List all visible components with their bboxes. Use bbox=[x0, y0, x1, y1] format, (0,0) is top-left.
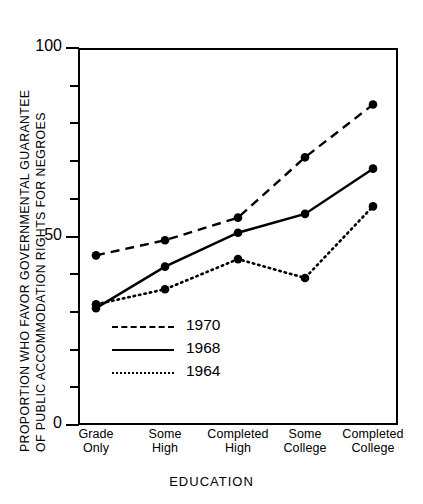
y-tick-label-50: 50 bbox=[18, 226, 62, 244]
legend: 1970 1968 1964 bbox=[112, 316, 282, 385]
y-tick-30 bbox=[70, 311, 79, 313]
legend-item-1964: 1964 bbox=[112, 362, 282, 385]
legend-label-1964: 1964 bbox=[186, 362, 220, 380]
y-axis-title-line-2: OF PUBLIC ACCOMMODATION RIGHTS FOR NEGRO… bbox=[34, 112, 48, 452]
legend-label-1970: 1970 bbox=[186, 316, 220, 334]
legend-swatch-dashed-icon bbox=[112, 326, 174, 328]
y-tick-90 bbox=[70, 85, 79, 87]
y-tick-80 bbox=[70, 122, 79, 124]
chart-page: PROPORTION WHO FAVOR GOVERNMENTAL GUARAN… bbox=[0, 0, 423, 504]
legend-item-1970: 1970 bbox=[112, 316, 282, 339]
legend-swatch-dotted-icon bbox=[112, 372, 174, 374]
y-tick-0 bbox=[66, 424, 79, 426]
y-tick-60 bbox=[70, 198, 79, 200]
legend-label-1968: 1968 bbox=[186, 339, 220, 357]
x-category-label-4: CompletedCollege bbox=[328, 428, 418, 455]
y-axis-title-line-1: PROPORTION WHO FAVOR GOVERNMENTAL GUARAN… bbox=[18, 90, 32, 452]
y-tick-label-100: 100 bbox=[18, 37, 62, 55]
y-tick-40 bbox=[70, 273, 79, 275]
y-tick-20 bbox=[70, 349, 79, 351]
y-tick-10 bbox=[70, 386, 79, 388]
y-tick-100 bbox=[66, 47, 79, 49]
legend-item-1968: 1968 bbox=[112, 339, 282, 362]
legend-swatch-solid-icon bbox=[112, 349, 174, 351]
y-tick-70 bbox=[70, 160, 79, 162]
y-tick-50 bbox=[66, 236, 79, 238]
x-axis-title: EDUCATION bbox=[0, 474, 423, 489]
